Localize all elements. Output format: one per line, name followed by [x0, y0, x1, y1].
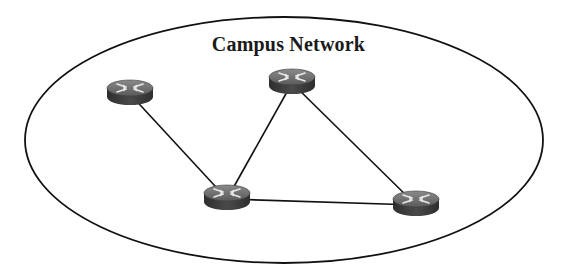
diagram-title: Campus Network — [0, 33, 577, 56]
router-3-icon[interactable] — [204, 185, 250, 210]
campus-network-diagram: Campus Network — [0, 0, 577, 270]
router-1-icon[interactable] — [107, 80, 153, 105]
link-router-1-router-3 — [130, 94, 227, 199]
router-2-icon[interactable] — [269, 69, 315, 94]
link-router-2-router-3 — [227, 83, 292, 199]
link-router-2-router-4 — [292, 83, 416, 205]
link-router-3-router-4 — [227, 199, 416, 205]
router-4-icon[interactable] — [393, 191, 439, 216]
